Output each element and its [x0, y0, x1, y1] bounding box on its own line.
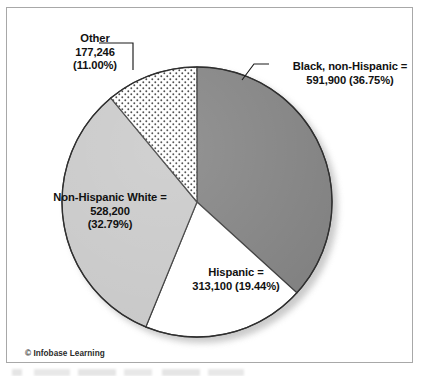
slice-label-black-line-1: Black, non-Hispanic =: [275, 60, 423, 74]
slice-label-other-line-1: Other: [49, 32, 141, 46]
page-bleed-text: [12, 369, 282, 376]
slice-label-nhwhite-line-3: (32.79%): [34, 218, 186, 232]
slice-label-hispanic: Hispanic = 313,100 (19.44%): [162, 266, 310, 293]
slice-label-hispanic-line-1: Hispanic =: [162, 266, 310, 280]
leader-line-black-non-hispanic: [242, 64, 269, 80]
slice-label-other: Other 177,246 (11.00%): [49, 32, 141, 73]
slice-label-non-hispanic-white: Non-Hispanic White = 528,200 (32.79%): [34, 191, 186, 232]
figure-frame: Other 177,246 (11.00%) Black, non-Hispan…: [6, 7, 413, 363]
slice-label-other-line-2: 177,246: [49, 46, 141, 60]
slice-label-black-line-2: 591,900 (36.75%): [275, 74, 423, 88]
copyright-credit: © Infobase Learning: [25, 349, 105, 358]
slice-label-black-non-hispanic: Black, non-Hispanic = 591,900 (36.75%): [275, 60, 423, 87]
slice-label-other-line-3: (11.00%): [49, 59, 141, 73]
slice-label-nhwhite-line-1: Non-Hispanic White =: [34, 191, 186, 205]
slice-label-nhwhite-line-2: 528,200: [34, 205, 186, 219]
slice-label-hispanic-line-2: 313,100 (19.44%): [162, 280, 310, 294]
